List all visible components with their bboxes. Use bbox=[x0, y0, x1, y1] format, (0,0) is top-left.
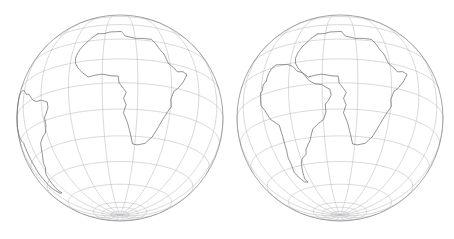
globe-canvas bbox=[0, 0, 454, 239]
graticule-parallels bbox=[237, 17, 443, 221]
coastline-africa bbox=[295, 31, 407, 145]
graticule-parallels bbox=[17, 17, 223, 221]
coastline-africa bbox=[75, 31, 187, 145]
globe-figure bbox=[0, 0, 454, 239]
coastline-south-america bbox=[17, 91, 62, 194]
reconstruction-globe bbox=[237, 15, 443, 221]
present-day-globe bbox=[17, 15, 223, 221]
coastlines bbox=[261, 31, 407, 182]
coastline-south-america-fitted bbox=[261, 65, 332, 183]
